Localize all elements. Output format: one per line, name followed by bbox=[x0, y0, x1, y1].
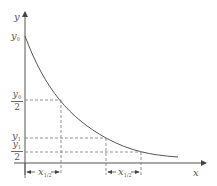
y-axis-label: y bbox=[14, 12, 20, 22]
decay-curve bbox=[25, 36, 178, 157]
y0-half-label: y0 2 bbox=[11, 90, 23, 112]
y0-label: y0 bbox=[11, 31, 20, 42]
decay-diagram bbox=[0, 0, 217, 186]
x-axis-label: x bbox=[193, 168, 199, 178]
half-life-interval-label-1: x1/2 bbox=[38, 167, 52, 178]
half-life-interval-label-2: x1/2 bbox=[118, 167, 132, 178]
y1-half-label: y1 2 bbox=[11, 140, 23, 162]
